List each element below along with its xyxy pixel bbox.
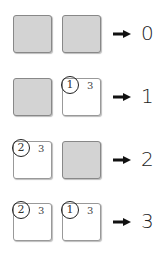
grey-box <box>62 141 101 179</box>
white-box: 2 3 <box>13 141 52 179</box>
right-arrow-icon <box>113 30 131 38</box>
circled-number: 2 <box>12 139 30 157</box>
box-value: 3 <box>87 205 93 216</box>
grey-box <box>13 78 52 116</box>
right-arrow-icon <box>113 218 131 226</box>
box-value: 3 <box>87 80 93 91</box>
row-0: 0 <box>0 15 165 57</box>
right-arrow-icon <box>113 156 131 164</box>
circled-number: 1 <box>61 76 79 94</box>
result-value: 2 <box>141 147 154 171</box>
box-value: 3 <box>38 143 44 154</box>
result-value: 1 <box>141 84 154 108</box>
white-box: 1 3 <box>62 203 101 241</box>
circled-number: 2 <box>12 201 30 219</box>
result-value: 0 <box>141 21 154 45</box>
white-box: 1 3 <box>62 78 101 116</box>
result-value: 3 <box>141 209 154 233</box>
grey-box <box>13 15 52 53</box>
row-1: 1 3 1 <box>0 78 165 120</box>
circled-number: 1 <box>61 201 79 219</box>
white-box: 2 3 <box>13 203 52 241</box>
row-2: 2 3 2 <box>0 141 165 183</box>
right-arrow-icon <box>113 93 131 101</box>
grey-box <box>62 15 101 53</box>
row-3: 2 3 1 3 3 <box>0 203 165 245</box>
box-value: 3 <box>38 205 44 216</box>
